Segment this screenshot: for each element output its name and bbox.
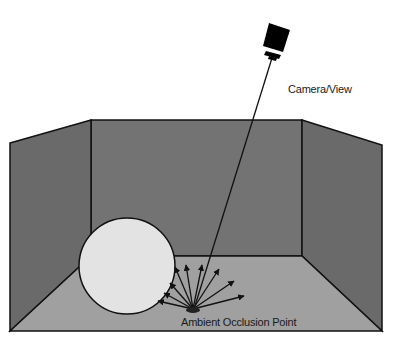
camera-label: Camera/View	[288, 83, 352, 95]
occlusion-point-label: Ambient Occlusion Point	[181, 316, 296, 328]
sphere	[79, 218, 175, 314]
ambient-occlusion-diagram	[0, 0, 404, 351]
camera-icon	[263, 23, 290, 61]
occlusion-point-marker	[186, 307, 200, 313]
